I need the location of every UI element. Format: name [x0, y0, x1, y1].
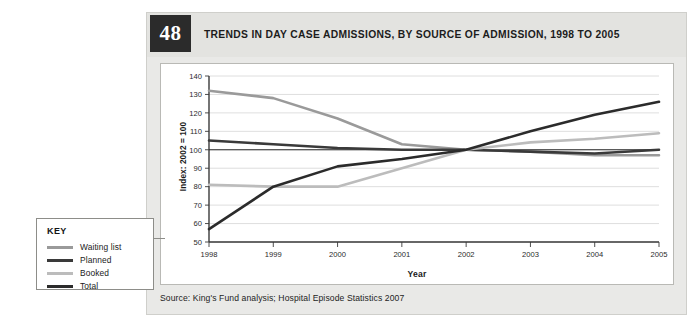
svg-text:2005: 2005: [651, 250, 668, 259]
svg-text:2003: 2003: [522, 250, 539, 259]
svg-text:110: 110: [190, 127, 202, 136]
legend-item-booked: Booked: [47, 267, 153, 279]
key-legend-box: KEY Waiting list Planned Booked Total: [36, 218, 154, 290]
legend-item-planned: Planned: [47, 254, 153, 266]
legend-label-total: Total: [80, 281, 98, 291]
line-chart-svg: 5060708090100110120130140199819992000200…: [161, 64, 673, 284]
svg-text:120: 120: [189, 109, 202, 118]
legend-swatch-planned: [47, 259, 73, 262]
svg-text:70: 70: [194, 201, 202, 210]
svg-text:2004: 2004: [586, 250, 603, 259]
figure-source-note: Source: King's Fund analysis; Hospital E…: [160, 293, 404, 303]
legend-swatch-booked: [47, 272, 73, 275]
x-axis-title: Year: [161, 269, 673, 279]
legend-item-total: Total: [47, 280, 153, 292]
svg-text:60: 60: [194, 219, 202, 228]
legend-swatch-total: [47, 285, 73, 288]
y-axis-title: Index: 2002 = 100: [179, 87, 188, 227]
svg-text:2002: 2002: [458, 250, 475, 259]
svg-text:2000: 2000: [329, 250, 346, 259]
figure-number-badge: 48: [150, 15, 191, 52]
plot-area: 5060708090100110120130140199819992000200…: [161, 64, 673, 284]
legend-item-waiting-list: Waiting list: [47, 241, 153, 253]
chart-card: 5060708090100110120130140199819992000200…: [160, 63, 674, 285]
legend-label-planned: Planned: [80, 255, 111, 265]
svg-text:140: 140: [189, 72, 202, 81]
key-connector-line: [153, 238, 165, 239]
svg-text:1999: 1999: [265, 250, 282, 259]
svg-text:2001: 2001: [393, 250, 410, 259]
svg-text:100: 100: [189, 146, 202, 155]
svg-text:1998: 1998: [201, 250, 218, 259]
figure-header: 48 TRENDS IN DAY CASE ADMISSIONS, BY SOU…: [147, 13, 686, 57]
svg-text:130: 130: [189, 90, 202, 99]
figure-title: TRENDS IN DAY CASE ADMISSIONS, BY SOURCE…: [204, 29, 620, 41]
legend-swatch-waiting-list: [47, 246, 73, 249]
key-title: KEY: [47, 226, 153, 236]
svg-text:90: 90: [194, 164, 202, 173]
legend-label-waiting-list: Waiting list: [80, 242, 121, 252]
legend-label-booked: Booked: [80, 268, 109, 278]
svg-text:80: 80: [194, 182, 202, 191]
figure-panel: 48 TRENDS IN DAY CASE ADMISSIONS, BY SOU…: [146, 12, 687, 315]
svg-text:50: 50: [194, 238, 202, 247]
